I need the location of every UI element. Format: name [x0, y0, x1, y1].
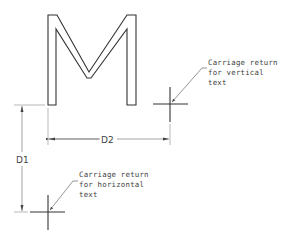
- letter-m-outline: [48, 15, 136, 105]
- text-alignment-diagram: Carriage return for vertical text D2 D1: [0, 0, 293, 243]
- horizontal-callout-line-2: for horizontal: [79, 180, 144, 189]
- horizontal-callout-leader: [50, 181, 78, 210]
- vertical-callout-text: Carriage return for vertical text: [208, 58, 278, 87]
- horizontal-carriage-return-marker: [30, 195, 65, 230]
- horizontal-callout-line-1: Carriage return: [79, 170, 149, 179]
- vertical-callout-line-2: for vertical: [208, 68, 264, 77]
- d1-dimension: D1: [16, 106, 29, 211]
- horizontal-callout-line-3: text: [79, 190, 98, 199]
- d2-label: D2: [101, 135, 114, 145]
- d1-label: D1: [16, 155, 29, 165]
- horizontal-callout-text: Carriage return for horizontal text: [79, 170, 149, 199]
- d2-dimension: D2: [49, 135, 169, 145]
- vertical-callout-line-3: text: [208, 78, 227, 87]
- vertical-callout-line-1: Carriage return: [208, 58, 278, 67]
- vertical-callout-leader: [172, 68, 207, 102]
- vertical-carriage-return-marker: [153, 87, 188, 122]
